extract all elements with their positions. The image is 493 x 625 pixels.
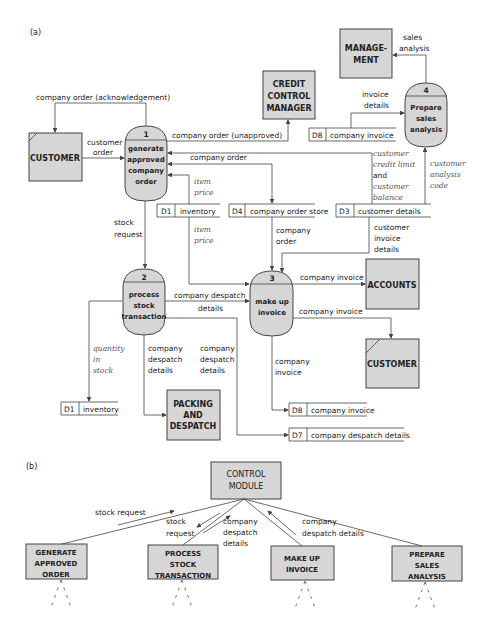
entity-packing-despatch[interactable]: PACKING AND DESPATCH <box>167 390 220 440</box>
svg-text:ORDER: ORDER <box>42 571 70 579</box>
entity-management[interactable]: MANAGE- MENT <box>340 29 392 78</box>
svg-text:GENERATE: GENERATE <box>36 549 77 557</box>
control-module[interactable]: CONTROL MODULE <box>211 462 281 499</box>
store-d3[interactable]: D3 customer details <box>336 204 431 217</box>
svg-text:invoice: invoice <box>362 90 389 99</box>
svg-text:4: 4 <box>423 86 428 95</box>
svg-text:analysis: analysis <box>399 44 429 53</box>
svg-text:company order store: company order store <box>250 207 329 216</box>
svg-text:CUSTOMER: CUSTOMER <box>367 360 417 369</box>
svg-text:customer details: customer details <box>358 207 421 216</box>
svg-text:despatch: despatch <box>223 528 258 537</box>
store-d7[interactable]: D7 company despatch details <box>289 428 410 441</box>
svg-text:CONTROL: CONTROL <box>226 470 266 479</box>
svg-text:quantity: quantity <box>93 344 125 353</box>
svg-text:3: 3 <box>269 274 274 283</box>
svg-text:analysis: analysis <box>430 170 461 179</box>
svg-text:CREDIT: CREDIT <box>273 80 306 89</box>
flows-panel-b: stock request stock request company desp… <box>50 499 436 612</box>
store-d8-top[interactable]: D8 company invoice <box>309 128 396 141</box>
svg-text:despatch details: despatch details <box>302 529 364 538</box>
svg-text:MENT: MENT <box>353 56 379 65</box>
svg-text:D7: D7 <box>292 431 303 440</box>
svg-text:company order: company order <box>190 153 248 162</box>
svg-text:Prepare: Prepare <box>410 104 442 112</box>
svg-text:request: request <box>114 230 143 239</box>
svg-text:sales: sales <box>403 33 422 42</box>
svg-text:PROCESS: PROCESS <box>165 550 201 558</box>
process-1-generate-approved-order[interactable]: 1 generate approved company order <box>125 126 167 201</box>
svg-text:1: 1 <box>143 130 148 139</box>
svg-text:stock request: stock request <box>95 508 146 517</box>
svg-text:D8: D8 <box>292 406 303 415</box>
store-d1-bottom[interactable]: D1 inventory <box>61 402 119 415</box>
svg-text:D4: D4 <box>232 207 243 216</box>
svg-text:order: order <box>276 237 297 246</box>
svg-text:customer: customer <box>373 149 409 158</box>
svg-text:AND: AND <box>183 411 203 420</box>
entity-customer-right[interactable]: CUSTOMER <box>366 339 419 388</box>
svg-text:customer: customer <box>430 159 466 168</box>
svg-text:customer: customer <box>374 223 410 232</box>
svg-text:price: price <box>194 236 214 245</box>
svg-text:company despatch: company despatch <box>174 291 246 300</box>
store-d1-top[interactable]: D1 inventory <box>157 204 220 217</box>
module-process-stock-transaction[interactable]: PROCESS STOCK TRANSACTION <box>148 545 218 580</box>
svg-text:item: item <box>194 177 211 186</box>
svg-text:ACCOUNTS: ACCOUNTS <box>367 281 416 290</box>
entity-accounts[interactable]: ACCOUNTS <box>366 259 419 309</box>
process-3-make-up-invoice[interactable]: 3 make up invoice <box>250 271 293 336</box>
svg-text:D1: D1 <box>161 207 172 216</box>
svg-text:company invoice: company invoice <box>300 273 364 282</box>
svg-text:APPROVED: APPROVED <box>35 560 78 568</box>
svg-text:invoice: invoice <box>275 368 302 377</box>
svg-text:DESPATCH: DESPATCH <box>170 422 217 431</box>
panel-b-label: (b) <box>26 462 37 471</box>
svg-text:company: company <box>223 517 258 526</box>
process-2-process-stock-transaction[interactable]: 2 process stock transaction <box>121 269 166 335</box>
svg-text:stock: stock <box>133 302 154 310</box>
store-d8-bottom[interactable]: D8 company invoice <box>289 403 375 416</box>
svg-text:analysis: analysis <box>410 126 442 134</box>
svg-text:despatch: despatch <box>148 355 183 364</box>
svg-text:company order (unapproved): company order (unapproved) <box>172 131 282 140</box>
svg-text:invoice: invoice <box>258 309 286 317</box>
svg-text:PACKING: PACKING <box>173 400 213 409</box>
svg-text:and: and <box>373 171 387 180</box>
svg-text:stock: stock <box>114 218 135 227</box>
entity-customer-left[interactable]: CUSTOMER <box>29 133 82 181</box>
svg-text:details: details <box>200 366 225 375</box>
svg-text:details: details <box>364 101 389 110</box>
svg-text:ANALYSIS: ANALYSIS <box>408 573 446 581</box>
svg-text:INVOICE: INVOICE <box>286 566 318 574</box>
svg-text:company: company <box>275 357 310 366</box>
svg-text:inventory: inventory <box>180 207 216 216</box>
process-4-prepare-sales-analysis[interactable]: 4 Prepare sales analysis <box>405 83 447 147</box>
module-prepare-sales-analysis[interactable]: PREPARE SALES ANALYSIS <box>392 546 462 581</box>
entity-credit-control-manager[interactable]: CREDIT CONTROL MANAGER <box>263 71 315 119</box>
svg-text:details: details <box>374 245 399 254</box>
svg-text:company: company <box>276 226 311 235</box>
svg-text:request: request <box>166 529 195 538</box>
svg-text:order: order <box>93 148 114 157</box>
svg-text:code: code <box>430 181 449 190</box>
svg-text:make up: make up <box>255 298 289 306</box>
svg-text:sales: sales <box>416 115 436 123</box>
module-make-up-invoice[interactable]: MAKE UP INVOICE <box>271 546 334 580</box>
svg-text:details: details <box>148 366 173 375</box>
svg-text:company order (acknowledgement: company order (acknowledgement) <box>36 93 170 102</box>
svg-text:company invoice: company invoice <box>299 307 363 316</box>
svg-text:details: details <box>223 539 248 548</box>
svg-text:process: process <box>129 291 160 299</box>
svg-text:MANAGER: MANAGER <box>266 104 311 113</box>
svg-text:despatch: despatch <box>200 355 235 364</box>
svg-text:MAKE UP: MAKE UP <box>284 555 320 563</box>
store-d4[interactable]: D4 company order store <box>229 204 329 217</box>
svg-text:SALES: SALES <box>415 562 440 570</box>
svg-text:company: company <box>128 167 164 175</box>
module-generate-approved-order[interactable]: GENERATE APPROVED ORDER <box>26 544 87 579</box>
svg-text:STOCK: STOCK <box>170 561 197 569</box>
panel-a-label: (a) <box>30 28 41 37</box>
data-flow-diagram: (a) CUSTOMER CREDIT CONTROL MANAGER MANA… <box>0 0 493 625</box>
svg-text:company: company <box>200 344 235 353</box>
